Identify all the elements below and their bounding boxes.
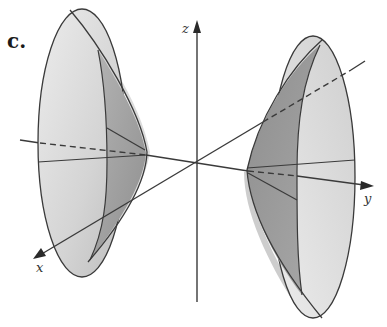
hyperboloid-diagram: c. — [0, 0, 387, 327]
y-axis-label: y — [363, 191, 372, 206]
x-axis-arrow-icon — [33, 248, 46, 259]
y-axis-arrow-icon — [360, 181, 374, 190]
y-axis-back-segment — [20, 140, 40, 143]
panel-label: c. — [7, 29, 26, 53]
z-axis-label: z — [181, 21, 189, 36]
x-axis-label: x — [36, 260, 44, 275]
left-sheet — [38, 9, 150, 277]
z-axis-arrow-icon — [193, 20, 201, 33]
x-axis-back-segment — [351, 61, 365, 70]
